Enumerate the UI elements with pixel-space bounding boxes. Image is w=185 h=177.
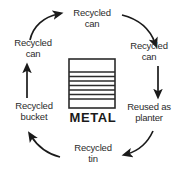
stage-label-left-lower-line2: bucket	[2, 112, 66, 123]
metal-can-icon	[68, 58, 116, 109]
stage-label-right-upper-line1: Recycled	[130, 40, 167, 51]
stage-label-right-lower-line1: Reused as	[127, 101, 171, 112]
stage-label-bottom: Recycled tin	[58, 143, 128, 164]
stage-label-top: Recycled can	[57, 8, 127, 29]
stage-label-left-lower: Recycled bucket	[2, 101, 66, 122]
stage-label-left-upper-line2: can	[2, 49, 64, 60]
stage-label-left-upper-line1: Recycled	[14, 37, 51, 48]
arrow-right-lower-to-bottom	[127, 131, 153, 154]
metal-recycling-cycle-diagram: METAL Recycled can Recycled can Reused a…	[0, 0, 185, 177]
stage-label-left-upper: Recycled can	[2, 38, 64, 59]
stage-label-left-lower-line1: Recycled	[15, 100, 52, 111]
stage-label-right-upper: Recycled can	[118, 41, 180, 62]
stage-label-right-upper-line2: can	[118, 52, 180, 63]
stage-label-bottom-line1: Recycled	[74, 142, 111, 153]
stage-label-right-lower-line2: planter	[115, 113, 183, 124]
stage-label-bottom-line2: tin	[58, 154, 128, 165]
stage-label-top-line2: can	[57, 19, 127, 30]
stage-label-top-line1: Recycled	[73, 7, 110, 18]
stage-label-right-lower: Reused as planter	[115, 102, 183, 123]
arrow-bottom-to-left-lower	[31, 136, 60, 157]
